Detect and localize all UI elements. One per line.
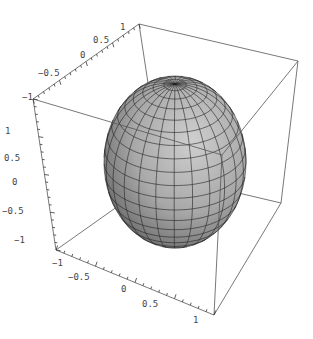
axis-tick <box>113 43 114 48</box>
y-axis-tick-label: 0 <box>121 284 126 294</box>
x-axis-tick-label: −1 <box>22 92 33 102</box>
axis-tick <box>96 262 98 267</box>
axis-tick <box>49 88 50 91</box>
axis-tick <box>50 212 55 213</box>
axis-tick <box>118 39 119 42</box>
z-axis-tick-label: 1 <box>5 126 10 136</box>
axis-tick <box>91 58 92 61</box>
axis-tick <box>54 84 55 87</box>
box-edge <box>281 61 298 203</box>
y-axis-tick-label: −0.5 <box>68 272 90 282</box>
axis-tick <box>39 137 44 138</box>
z-axis-tick-label: 0.5 <box>4 153 20 163</box>
axis-tick <box>103 267 104 270</box>
axis-tick <box>206 309 207 312</box>
axis-tick <box>70 73 71 76</box>
x-axis-tick-label: 1 <box>120 22 125 32</box>
axis-tick <box>80 257 81 260</box>
sphere-3d-plot: −1−0.500.5110.50−0.5−1−1−0.500.51 <box>0 0 313 339</box>
axis-tick <box>128 32 129 35</box>
axis-tick <box>198 306 199 309</box>
axis-tick <box>64 251 65 254</box>
axis-tick <box>151 287 152 290</box>
x-axis-tick-label: 0.5 <box>93 35 109 45</box>
axis-tick <box>134 28 135 31</box>
axis-tick <box>127 277 128 280</box>
axis-tick <box>167 293 168 296</box>
axis-tick <box>123 35 124 38</box>
axis-tick <box>44 92 45 95</box>
axis-tick <box>143 283 144 286</box>
axis-tick <box>97 54 98 57</box>
axis-tick <box>135 278 137 283</box>
axis-tick <box>175 294 177 299</box>
axis-tick <box>88 261 89 264</box>
axis-tick <box>190 303 191 306</box>
z-axis-tick-label: −1 <box>14 235 25 245</box>
box-edge <box>222 61 298 155</box>
axis-tick <box>159 290 160 293</box>
y-axis-tick-label: 1 <box>193 315 198 325</box>
axis-tick <box>107 47 108 50</box>
x-axis-tick-label: −0.5 <box>38 68 60 78</box>
x-axis-tick-label: 0 <box>80 50 85 60</box>
sphere-surface <box>104 76 246 248</box>
y-axis-tick-label: 0.5 <box>142 299 158 309</box>
axis-tick <box>182 300 183 303</box>
axis-tick <box>119 274 120 277</box>
z-axis-tick-label: −0.5 <box>2 206 24 216</box>
axis-tick <box>75 69 76 72</box>
axis-tick <box>60 80 61 85</box>
axis-tick <box>45 175 50 176</box>
axis-tick <box>38 95 39 98</box>
axis-tick <box>65 77 66 80</box>
axis-tick <box>72 254 73 257</box>
axis-tick <box>111 270 112 273</box>
axis-tick <box>102 50 103 53</box>
axis-tick <box>86 62 87 67</box>
axis-tick <box>81 65 82 68</box>
y-axis-tick-label: −1 <box>52 258 63 268</box>
z-axis-tick-label: 0 <box>12 177 17 187</box>
box-edge <box>139 24 298 61</box>
